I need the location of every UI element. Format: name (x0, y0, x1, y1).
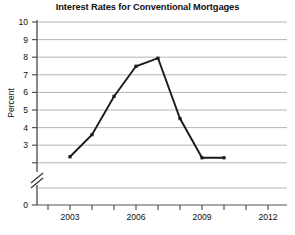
x-tick-label-2003: 2003 (50, 213, 90, 222)
chart-container: Interest Rates for Conventional Mortgage… (0, 0, 295, 235)
x-tick-label-2006: 2006 (116, 213, 156, 222)
data-line-interest-rate (70, 58, 224, 158)
data-point-2008 (178, 117, 181, 120)
x-tick-label-2012: 2012 (248, 213, 288, 222)
y-tick-label-3: 3 (6, 141, 28, 150)
x-axis (37, 205, 287, 210)
x-tick-label-2009: 2009 (182, 213, 222, 222)
plot-area (0, 0, 295, 235)
y-tick-label-6: 6 (6, 88, 28, 97)
y-tick-label-9: 9 (6, 36, 28, 45)
y-tick-label-0: 0 (6, 201, 28, 210)
data-point-2009 (200, 156, 203, 159)
data-markers (68, 57, 225, 160)
y-tick-label-10: 10 (6, 18, 28, 27)
data-point-2004 (90, 133, 93, 136)
data-point-2005 (112, 95, 115, 98)
data-point-2003 (68, 155, 71, 158)
data-point-2006 (134, 65, 137, 68)
y-tick-label-7: 7 (6, 71, 28, 80)
y-tick-label-5: 5 (6, 106, 28, 115)
data-point-2007 (156, 57, 159, 60)
gridlines (37, 22, 287, 188)
y-tick-label-8: 8 (6, 53, 28, 62)
y-tick-label-4: 4 (6, 124, 28, 133)
data-point-2010 (222, 156, 225, 159)
